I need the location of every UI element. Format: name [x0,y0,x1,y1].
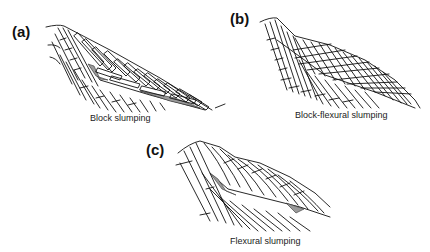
panel-c: (c) [100,125,430,252]
caption-c: Flexural slumping [230,236,301,246]
block-flexural-slumping-illustration [215,0,430,125]
panel-a: (a) [0,0,215,125]
caption-a: Block slumping [90,113,151,123]
caption-b: Block-flexural slumping [295,110,388,120]
flexural-slumping-illustration [100,125,430,252]
block-slumping-illustration [0,0,215,125]
panel-b: (b) [215,0,430,125]
